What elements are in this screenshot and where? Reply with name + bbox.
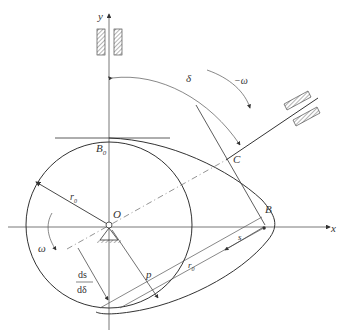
r0-label: r0 [70,191,77,204]
follower-axis-dashed [67,160,226,249]
vertical-guide-bushing [97,29,122,55]
b0-label: B0 [96,142,107,157]
parallel-line-1 [100,217,262,308]
ds-d-delta-label: ds dδ [76,269,93,295]
omega-arrow [48,213,56,250]
omega-label: ω [38,242,46,254]
b-label: B [265,203,272,215]
normal-line-c-b [196,105,265,225]
c-label: C [233,153,241,165]
s-dimension-line [225,228,262,250]
svg-text:ds: ds [78,269,87,280]
s-label: s [238,232,242,242]
neg-omega-label: −ω [234,75,248,86]
svg-text:dδ: dδ [77,284,87,295]
p-label: p [145,268,152,280]
delta-arc [112,77,240,145]
cam-profile [96,138,275,314]
r0-radius-line [36,182,109,225]
x-axis-label: x [330,222,336,234]
y-axis-label: y [97,10,103,22]
point-b [262,226,266,230]
follower-axis [226,98,318,160]
cam-diagram: y x O [0,0,343,336]
delta-label: δ [186,72,192,84]
origin-label: O [113,208,121,220]
r0-alt-label: r0 [188,260,195,272]
